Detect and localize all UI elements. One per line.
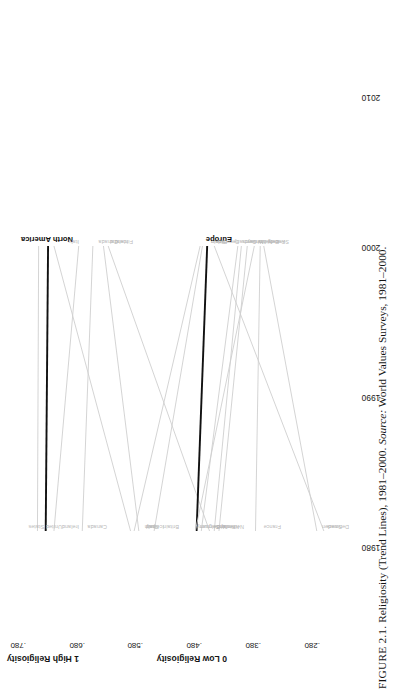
series-label: Sweden (322, 524, 342, 529)
trend-line (82, 246, 93, 531)
caption-source-value: World Values Surveys, 1981–2000. (376, 247, 388, 408)
series-label: Netherlands (214, 524, 244, 529)
series-label: North America (21, 236, 73, 244)
figure-caption: FIGURE 2.1. Religiosity (Trend Lines), 1… (376, 89, 388, 689)
trend-line (201, 246, 238, 531)
caption-title: Religiosity (Trend Lines), 1981–2000. (376, 448, 388, 623)
trend-line (134, 246, 200, 531)
y-axis-tick: .380 (246, 641, 262, 650)
series-label: Sweden (269, 239, 289, 244)
trend-line (54, 246, 131, 531)
trend-line (214, 246, 324, 531)
trend-line (214, 246, 241, 531)
trend-line (195, 246, 254, 531)
trend-line (154, 246, 202, 531)
trend-line (108, 246, 209, 531)
caption-source-label: Source: (376, 410, 388, 445)
series-label: Ireland (62, 524, 79, 529)
y-axis-title-low: 0 Low Religiosity (157, 654, 227, 664)
y-axis-tick: .780 (10, 641, 26, 650)
trend-line (264, 246, 317, 531)
trend-line (197, 246, 208, 531)
series-label: Britain (163, 524, 179, 529)
series-label: United States (29, 524, 63, 529)
series-label: Canada (88, 524, 107, 529)
caption-figure-number: FIGURE 2.1. (376, 626, 388, 689)
series-label: Denmark (217, 239, 240, 244)
trend-line (37, 246, 38, 531)
trend-line (219, 246, 247, 531)
y-axis-tick: .680 (69, 641, 85, 650)
trend-line (54, 246, 79, 531)
series-label: Italy (69, 239, 79, 244)
y-axis-tick: .480 (187, 641, 203, 650)
y-axis-title-high: 1 High Religiosity (6, 654, 78, 664)
series-label: France (263, 524, 280, 529)
y-axis-tick: .280 (305, 641, 321, 650)
trend-line (46, 246, 48, 531)
trend-line (103, 246, 138, 531)
series-label: Iceland (146, 524, 164, 529)
trend-line (256, 246, 261, 531)
series-label: Finland (115, 239, 133, 244)
y-axis-tick: .580 (128, 641, 144, 650)
